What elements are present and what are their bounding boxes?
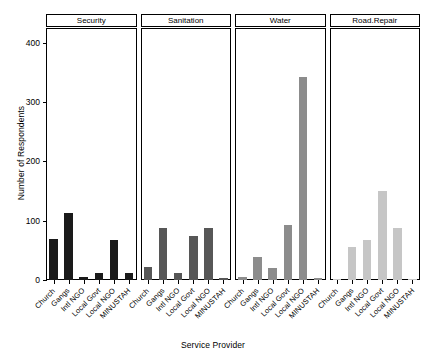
x-axis-tick <box>54 280 55 284</box>
x-axis-label: Service Provider <box>0 340 426 350</box>
y-axis-tick-label: 0 <box>35 275 40 285</box>
bar <box>110 240 118 280</box>
facet-panel-road-repair: Road.Repair <box>330 28 421 280</box>
facet-panel-security: Security <box>46 28 137 280</box>
x-axis-tick <box>273 280 274 284</box>
bar <box>159 228 167 280</box>
x-axis-tick <box>193 280 194 284</box>
x-axis-tick <box>382 280 383 284</box>
bar <box>144 267 152 280</box>
bar <box>393 228 401 280</box>
x-axis-tick <box>318 280 319 284</box>
x-axis-tick <box>367 280 368 284</box>
x-axis-tick <box>84 280 85 284</box>
x-axis-tick-layer: ChurchGangsIntl NGOLocal GovtLocal NGOMI… <box>46 280 420 340</box>
facet-panel-sanitation: Sanitation <box>141 28 232 280</box>
y-axis-label: Number of Respondents <box>16 68 26 238</box>
panel-strip-label: Road.Repair <box>330 14 421 27</box>
bar-group <box>46 28 137 280</box>
x-axis-tick <box>208 280 209 284</box>
panel-strip-label: Security <box>46 14 137 27</box>
y-axis-tick-label: 100 <box>26 216 40 226</box>
facet-panel-water: Water <box>235 28 326 280</box>
x-axis-tick <box>69 280 70 284</box>
panel-strip-label: Sanitation <box>141 14 232 27</box>
bar-group <box>330 28 421 280</box>
bar <box>174 273 182 280</box>
y-axis-tick-label: 300 <box>26 97 40 107</box>
x-axis-tick <box>288 280 289 284</box>
x-axis-tick <box>397 280 398 284</box>
panel-strip-label: Water <box>235 14 326 27</box>
bar <box>95 273 103 280</box>
bar <box>299 77 307 280</box>
bar <box>363 240 371 280</box>
x-axis-tick <box>163 280 164 284</box>
bar-group <box>235 28 326 280</box>
x-axis-tick <box>178 280 179 284</box>
bar <box>284 225 292 280</box>
bar <box>378 191 386 280</box>
x-axis-tick <box>352 280 353 284</box>
x-axis-tick <box>243 280 244 284</box>
plot-area: SecuritySanitationWaterRoad.Repair <box>46 28 420 280</box>
x-axis-tick <box>223 280 224 284</box>
x-axis-tick <box>129 280 130 284</box>
x-axis-tick <box>114 280 115 284</box>
bar <box>189 236 197 280</box>
y-axis-tick-label: 400 <box>26 38 40 48</box>
bar-group <box>141 28 232 280</box>
y-axis-tick-label: 200 <box>26 156 40 166</box>
bar <box>348 247 356 280</box>
bar <box>49 239 57 281</box>
bar <box>64 213 72 280</box>
bar-chart: Number of Respondents 0100200300400 Secu… <box>0 0 426 361</box>
x-axis-tick <box>337 280 338 284</box>
bar <box>204 228 212 280</box>
x-axis-tick <box>412 280 413 284</box>
x-axis-tick <box>303 280 304 284</box>
x-axis-tick <box>99 280 100 284</box>
x-axis-tick <box>148 280 149 284</box>
bar <box>253 257 261 280</box>
bar <box>268 268 276 280</box>
x-axis-tick <box>258 280 259 284</box>
